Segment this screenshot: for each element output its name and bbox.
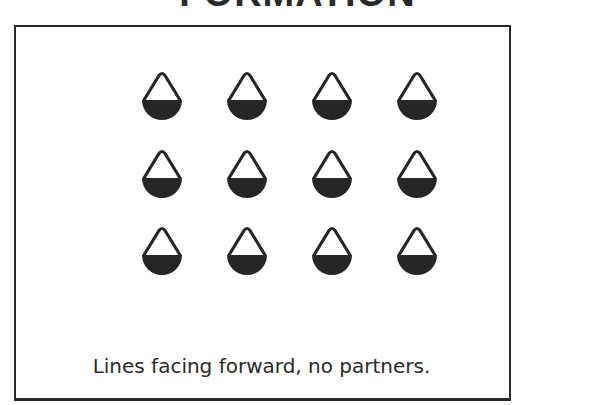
dancer-icon: [312, 74, 352, 121]
dancer-icon: [227, 229, 267, 276]
dancer-icon: [397, 74, 437, 121]
dancer-icon: [312, 152, 352, 199]
dancer-icon: [397, 152, 437, 199]
formation-caption: Lines facing forward, no partners.: [0, 354, 523, 378]
dancer-icon: [227, 74, 267, 121]
dancer-icon: [397, 229, 437, 276]
dancer-icon: [142, 74, 182, 121]
dancer-icon: [227, 152, 267, 199]
dancer-grid: [0, 0, 595, 405]
dancer-icon: [312, 229, 352, 276]
dancer-icon: [142, 152, 182, 199]
dancer-icon: [142, 229, 182, 276]
